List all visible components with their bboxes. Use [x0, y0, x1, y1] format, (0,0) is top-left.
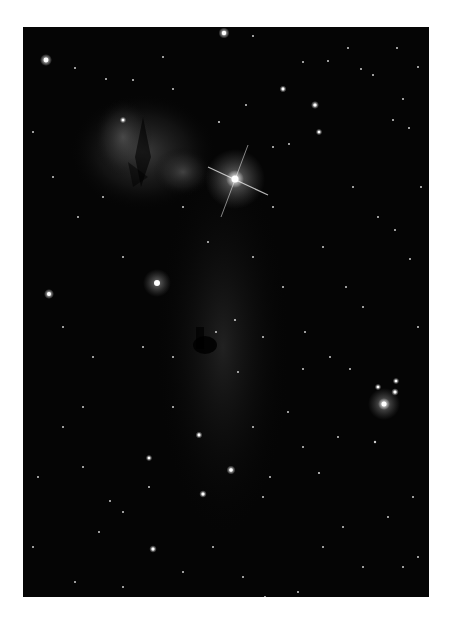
star: [394, 229, 396, 231]
star: [44, 58, 49, 63]
star: [172, 356, 174, 358]
star: [387, 516, 389, 518]
star: [182, 206, 184, 208]
star: [329, 356, 331, 358]
star: [162, 56, 164, 58]
star: [82, 406, 84, 408]
star: [352, 186, 354, 188]
star: [92, 356, 94, 358]
star: [237, 371, 239, 373]
star: [396, 47, 398, 49]
star: [327, 60, 329, 62]
star: [262, 496, 264, 498]
star: [342, 526, 344, 528]
star: [304, 331, 306, 333]
star: [420, 186, 422, 188]
star: [395, 380, 398, 383]
star: [245, 104, 247, 106]
star: [302, 61, 304, 63]
star: [47, 292, 51, 296]
star: [105, 78, 107, 80]
star: [360, 68, 362, 70]
star: [262, 336, 264, 338]
star: [264, 596, 266, 597]
star: [282, 88, 285, 91]
flame-nebula: [68, 92, 218, 212]
star: [62, 426, 64, 428]
star: [345, 286, 347, 288]
star: [82, 466, 84, 468]
star-field: [23, 27, 429, 597]
star: [337, 436, 339, 438]
star: [252, 256, 254, 258]
star: [148, 486, 150, 488]
star: [152, 548, 155, 551]
star: [272, 146, 274, 148]
star: [122, 256, 124, 258]
star: [215, 331, 217, 333]
star: [402, 98, 404, 100]
star: [207, 241, 209, 243]
star: [302, 368, 304, 370]
star: [122, 119, 125, 122]
star: [297, 591, 299, 593]
star: [377, 216, 379, 218]
star: [242, 576, 244, 578]
star: [122, 511, 124, 513]
star: [287, 411, 289, 413]
star: [362, 306, 364, 308]
star: [318, 131, 321, 134]
star: [417, 556, 419, 558]
star: [288, 143, 290, 145]
star: [272, 206, 274, 208]
star: [222, 31, 226, 35]
star: [202, 493, 205, 496]
star: [269, 476, 271, 478]
star: [412, 496, 414, 498]
star: [172, 406, 174, 408]
star: [349, 368, 351, 370]
star: [392, 119, 394, 121]
star: [74, 67, 76, 69]
bright-star-lower-right: [368, 388, 400, 420]
star: [132, 79, 134, 81]
star: [302, 446, 304, 448]
star: [409, 258, 411, 260]
star: [142, 346, 144, 348]
astrophotograph: [23, 27, 429, 597]
star: [282, 286, 284, 288]
star: [32, 131, 34, 133]
star: [218, 121, 220, 123]
star: [372, 74, 374, 76]
star: [52, 176, 54, 178]
star: [362, 566, 364, 568]
star: [318, 472, 320, 474]
star: [74, 581, 76, 583]
star: [229, 468, 233, 472]
star: [374, 441, 376, 443]
star: [212, 546, 214, 548]
star: [347, 47, 349, 49]
star: [322, 246, 324, 248]
star: [402, 566, 404, 568]
star: [252, 35, 254, 37]
star: [172, 88, 174, 90]
star: [62, 326, 64, 328]
star: [77, 216, 79, 218]
star: [122, 586, 124, 588]
star: [182, 571, 184, 573]
star: [198, 434, 201, 437]
star: [408, 127, 410, 129]
star: [252, 426, 254, 428]
nebula-star: [154, 280, 160, 286]
star: [32, 546, 34, 548]
star: [109, 500, 111, 502]
star: [377, 386, 380, 389]
star: [322, 546, 324, 548]
star: [98, 531, 100, 533]
star: [313, 103, 316, 106]
star: [417, 66, 419, 68]
star: [417, 326, 419, 328]
star: [37, 476, 39, 478]
star: [102, 196, 104, 198]
